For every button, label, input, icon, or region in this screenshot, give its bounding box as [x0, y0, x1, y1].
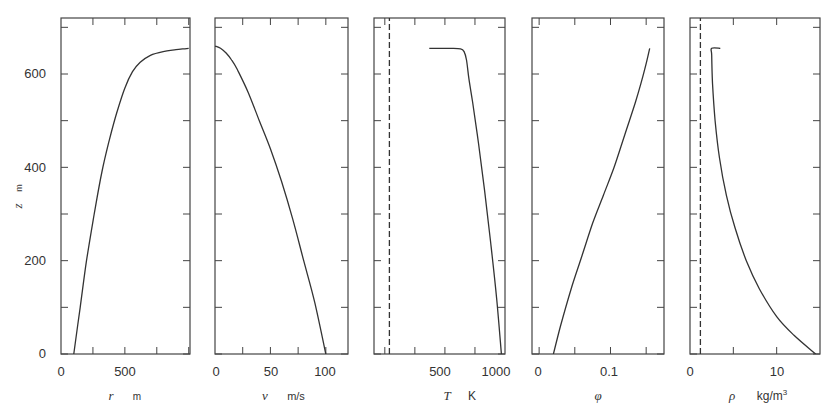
panel-frame: [215, 18, 348, 354]
p5-unit-base: kg/m: [757, 389, 783, 403]
panel-2: [215, 18, 348, 354]
profile-curve: [74, 48, 189, 354]
p4-xlabel-var: φ: [594, 388, 601, 403]
y-axis-unit: m: [14, 184, 24, 192]
x-axis-labels: 0 500 r m 0 50 100 v m/s 500 1000 T K 0 …: [57, 364, 787, 403]
figure: 0 200 400 600 z m 0 500 r m 0 50 100 v m…: [0, 0, 833, 419]
p2-xlabel-unit: m/s: [287, 390, 305, 402]
p1-xtick-0: 0: [57, 364, 64, 379]
p3-xtick-1000: 1000: [482, 364, 511, 379]
p4-xtick-0-1: 0.1: [600, 364, 618, 379]
p3-xlabel-var: T: [443, 388, 451, 403]
p4-xtick-0: 0: [534, 364, 541, 379]
p2-xlabel-var: v: [262, 388, 268, 403]
ytick-600: 600: [24, 66, 46, 81]
y-axis-title: z m: [10, 184, 25, 209]
p3-xtick-500: 500: [429, 364, 451, 379]
p5-xlabel-unit: kg/m3: [757, 388, 788, 403]
panel-frame: [374, 18, 505, 354]
profile-curve: [215, 46, 326, 354]
ytick-200: 200: [24, 253, 46, 268]
p5-unit-sup: 3: [783, 388, 788, 397]
y-axis-labels: 0 200 400 600 z m: [10, 66, 46, 361]
panel-1: [61, 18, 190, 354]
profile-curve: [429, 48, 501, 354]
p2-xtick-0: 0: [212, 364, 219, 379]
p2-xtick-100: 100: [314, 364, 336, 379]
panel-frame: [532, 18, 664, 354]
p1-xtick-500: 500: [114, 364, 136, 379]
ytick-400: 400: [24, 160, 46, 175]
ytick-0: 0: [39, 346, 46, 361]
p3-xlabel-unit: K: [468, 389, 476, 403]
p1-xlabel-unit: m: [133, 391, 141, 402]
p5-xtick-10: 10: [770, 364, 784, 379]
panel-frame: [690, 18, 820, 354]
profile-curve: [553, 48, 649, 354]
p1-xlabel-var: r: [108, 388, 114, 403]
p2-xtick-50: 50: [264, 364, 278, 379]
y-axis-var: z: [10, 203, 25, 209]
panel-3: [374, 18, 505, 354]
panel-4: [532, 18, 664, 354]
p5-xtick-0: 0: [686, 364, 693, 379]
profile-curve: [711, 48, 816, 354]
p5-xlabel-var: ρ: [728, 388, 735, 403]
panel-5: [690, 18, 820, 354]
